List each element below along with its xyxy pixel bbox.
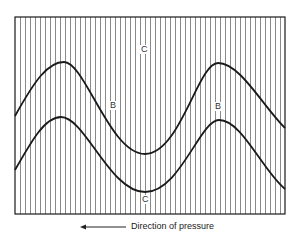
left-arrow-icon	[80, 223, 126, 231]
direction-caption: Direction of pressure	[131, 221, 214, 231]
label-c-bottom: C	[141, 195, 150, 204]
label-b-right: B	[214, 102, 222, 111]
label-b-left: B	[109, 101, 117, 110]
vertical-stripes	[21, 17, 281, 214]
label-c-top: C	[140, 45, 149, 54]
fold-diagram	[0, 0, 297, 240]
